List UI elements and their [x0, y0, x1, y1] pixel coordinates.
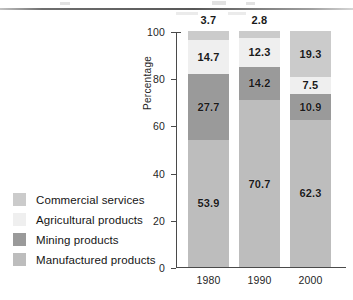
scan-speck [246, 2, 255, 5]
bar-2000-segment-mining-products[interactable]: 10.9 [290, 94, 331, 120]
bar-1990-segment-mining-products[interactable]: 14.2 [239, 67, 280, 101]
y-tick-100: 100 [171, 32, 176, 33]
y-tick-label-100: 100 [147, 26, 165, 38]
scan-speck [212, 1, 226, 5]
bar-1990-value-manufactured-products: 70.7 [248, 178, 270, 190]
bar-1980-segment-agricultural-products[interactable]: 14.7 [188, 40, 229, 75]
chart-legend: Commercial services Agricultural product… [13, 190, 163, 270]
legend-swatch-icon-mining-products [13, 233, 26, 246]
legend-label-agricultural-products: Agricultural products [36, 214, 143, 226]
bar-1980-value-mining-products: 27.7 [197, 101, 219, 113]
legend-item-agricultural-products[interactable]: Agricultural products [13, 210, 163, 229]
bar-1980-above-label: 3.7 [188, 14, 229, 26]
y-axis-title: Percentage [142, 56, 153, 110]
legend-swatch-icon-agricultural-products [13, 213, 26, 226]
legend-label-mining-products: Mining products [36, 234, 119, 246]
bar-2000-value-commercial-services: 19.3 [299, 48, 321, 60]
bar-1980-segment-mining-products[interactable]: 27.7 [188, 74, 229, 139]
bar-2000-value-agricultural-products: 7.5 [303, 79, 319, 91]
y-axis-top-cap [176, 32, 181, 33]
y-tick-label-40: 40 [153, 168, 165, 180]
legend-item-commercial-services[interactable]: Commercial services [13, 190, 163, 209]
y-tick-80: 80 [171, 79, 176, 80]
x-tick-label-2000: 2000 [284, 274, 337, 286]
y-tick-60: 60 [171, 126, 176, 127]
legend-item-mining-products[interactable]: Mining products [13, 230, 163, 249]
bar-2000-value-manufactured-products: 62.3 [299, 187, 321, 199]
bar-1990-value-mining-products: 14.2 [248, 77, 270, 89]
bar-1990-segment-agricultural-products[interactable]: 12.3 [239, 38, 280, 67]
y-tick-40: 40 [171, 174, 176, 175]
bar-2000-segment-commercial-services[interactable]: 19.3 [290, 31, 331, 77]
bar-1990-segment-commercial-services[interactable]: 2.8 [239, 31, 280, 38]
x-tick-label-1980: 1980 [182, 274, 235, 286]
bar-1980-segment-commercial-services[interactable]: 3.7 [188, 31, 229, 40]
y-axis-line [176, 32, 177, 268]
bar-1980-value-agricultural-products: 14.7 [197, 51, 219, 63]
y-tick-label-80: 80 [153, 73, 165, 85]
bar-2000-segment-agricultural-products[interactable]: 7.5 [290, 77, 331, 95]
bar-1990-above-label: 2.8 [239, 14, 280, 26]
legend-swatch-icon-manufactured-products [13, 253, 26, 266]
bar-1990[interactable]: 2.8 2.8 12.3 14.2 70.7 1990 [239, 31, 280, 267]
bar-2000-value-mining-products: 10.9 [299, 101, 321, 113]
stacked-bar-chart-figure: Percentage 0 20 40 60 80 100 3.7 3.7 [0, 0, 353, 300]
y-tick-label-60: 60 [153, 120, 165, 132]
x-axis-line [176, 267, 346, 268]
bar-1990-segment-manufactured-products[interactable]: 70.7 [239, 100, 280, 267]
plot-area: 0 20 40 60 80 100 3.7 3.7 14.7 27.7 [176, 32, 346, 268]
bar-1980[interactable]: 3.7 3.7 14.7 27.7 53.9 1980 [188, 31, 229, 267]
legend-label-commercial-services: Commercial services [36, 194, 145, 206]
bar-2000[interactable]: 19.3 7.5 10.9 62.3 2000 [290, 31, 331, 267]
x-tick-label-1990: 1990 [233, 274, 286, 286]
bar-1980-value-manufactured-products: 53.9 [197, 197, 219, 209]
y-tick-0: 0 [171, 268, 176, 269]
legend-swatch-icon-commercial-services [13, 193, 26, 206]
bar-1990-value-agricultural-products: 12.3 [248, 46, 270, 58]
bar-1980-segment-manufactured-products[interactable]: 53.9 [188, 140, 229, 267]
legend-item-manufactured-products[interactable]: Manufactured products [13, 250, 163, 269]
y-tick-20: 20 [171, 221, 176, 222]
scan-rule-divider [0, 8, 353, 10]
bar-2000-segment-manufactured-products[interactable]: 62.3 [290, 120, 331, 267]
scan-speck [60, 2, 70, 5]
legend-label-manufactured-products: Manufactured products [36, 254, 156, 266]
